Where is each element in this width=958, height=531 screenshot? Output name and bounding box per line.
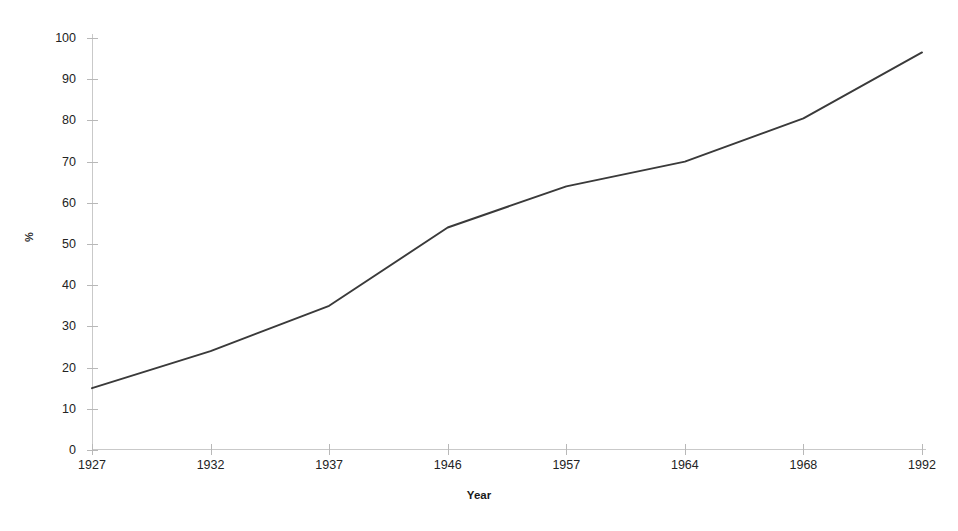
y-tick-mark xyxy=(87,285,98,286)
x-tick-mark xyxy=(566,444,567,455)
x-tick-mark xyxy=(211,444,212,455)
y-tick-mark xyxy=(87,120,98,121)
x-axis-title: Year xyxy=(0,489,958,501)
x-tick-mark xyxy=(448,444,449,455)
x-tick-label: 1992 xyxy=(908,458,936,472)
y-tick-mark xyxy=(87,203,98,204)
x-axis-tick-labels: 19271932193719461957196419681992 xyxy=(92,458,932,482)
x-tick-label: 1927 xyxy=(78,458,106,472)
y-tick-label: 90 xyxy=(62,72,76,86)
x-tick-label: 1946 xyxy=(434,458,462,472)
x-tick-label: 1968 xyxy=(790,458,818,472)
x-tick-label: 1964 xyxy=(671,458,699,472)
y-tick-mark xyxy=(87,368,98,369)
x-tick-label: 1957 xyxy=(552,458,580,472)
x-tick-label: 1932 xyxy=(197,458,225,472)
y-tick-label: 30 xyxy=(62,319,76,333)
x-tick-mark xyxy=(92,444,93,455)
y-axis-tick-labels: 0102030405060708090100 xyxy=(40,0,84,531)
x-tick-mark xyxy=(922,444,923,455)
y-tick-label: 70 xyxy=(62,155,76,169)
x-tick-label: 1937 xyxy=(315,458,343,472)
x-tick-mark xyxy=(803,444,804,455)
y-tick-mark xyxy=(87,79,98,80)
y-tick-label: 50 xyxy=(62,237,76,251)
y-tick-label: 0 xyxy=(69,443,76,457)
y-tick-label: 20 xyxy=(62,361,76,375)
y-tick-mark xyxy=(87,162,98,163)
y-tick-label: 80 xyxy=(62,113,76,127)
x-tick-mark xyxy=(685,444,686,455)
y-tick-label: 10 xyxy=(62,402,76,416)
y-tick-label: 60 xyxy=(62,196,76,210)
y-tick-mark xyxy=(87,326,98,327)
y-tick-mark xyxy=(87,244,98,245)
y-tick-mark xyxy=(87,409,98,410)
x-tick-mark xyxy=(329,444,330,455)
y-tick-label: 40 xyxy=(62,278,76,292)
series-line xyxy=(92,38,922,450)
line-chart: % 0102030405060708090100 192719321937194… xyxy=(0,0,958,531)
y-tick-label: 100 xyxy=(55,31,76,45)
y-tick-mark xyxy=(87,38,98,39)
plot-area xyxy=(92,38,922,450)
